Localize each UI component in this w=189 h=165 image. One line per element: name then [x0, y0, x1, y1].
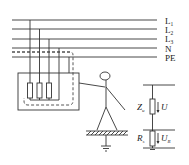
- label-pe: PE: [165, 53, 176, 63]
- fault-path-dashed: [12, 52, 73, 105]
- person-arm: [106, 87, 125, 110]
- label-u: U: [161, 102, 168, 112]
- earth-icon: [101, 135, 111, 151]
- person-leg-left: [97, 107, 106, 130]
- label-zu: Zu: [137, 102, 145, 113]
- conductor-labels: L1 L2 L3 N PE: [165, 16, 176, 63]
- resistor-3: [47, 83, 52, 98]
- supply-conductors: [12, 20, 157, 57]
- person-leg-right: [106, 107, 117, 130]
- resistor-2: [37, 83, 42, 98]
- load-resistors: [28, 83, 60, 100]
- resistor-1: [28, 83, 33, 98]
- arrow-down-icon: [157, 133, 160, 144]
- ground-surface: [86, 131, 128, 135]
- person-figure: [97, 72, 125, 130]
- electrical-diagram: L1 L2 L3 N PE: [0, 0, 189, 165]
- resistor-zu: [150, 99, 155, 114]
- resistor-rs: [150, 131, 155, 146]
- person-head: [100, 72, 110, 80]
- label-ur: UR: [161, 133, 171, 144]
- equivalent-circuit: Zu U Rs UR: [136, 85, 175, 150]
- label-rs: Rs: [136, 133, 145, 144]
- arrow-down-icon: [157, 102, 160, 113]
- touch-contact: [79, 83, 105, 87]
